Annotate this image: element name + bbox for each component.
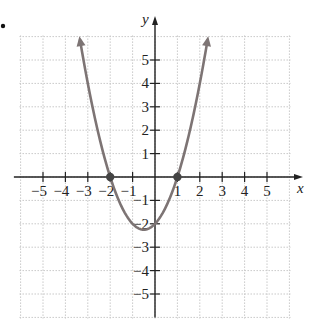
x-intercept-point <box>106 173 114 181</box>
bullet-marker <box>1 24 5 28</box>
x-tick-label: −4 <box>53 183 69 199</box>
y-tick-label: 4 <box>142 75 150 91</box>
y-tick-label: −1 <box>133 192 149 208</box>
y-axis-arrow-icon <box>152 16 158 25</box>
y-axis-label: y <box>140 11 149 27</box>
y-tick-label: 3 <box>142 99 150 115</box>
x-intercept-point <box>173 173 181 181</box>
x-tick-label: −3 <box>76 183 92 199</box>
curve-arrow-icon <box>202 36 211 47</box>
axes <box>14 16 303 317</box>
y-tick-label: 2 <box>142 122 150 138</box>
x-tick-label: 4 <box>241 183 249 199</box>
x-tick-label: −5 <box>31 183 47 199</box>
y-tick-label: 1 <box>142 146 150 162</box>
y-tick-label: −4 <box>133 263 149 279</box>
y-tick-label: 5 <box>142 52 150 68</box>
y-tick-label: −3 <box>133 239 149 255</box>
parabola-chart: −5−4−3−2−112345−5−4−3−2−112345 x y <box>0 0 310 324</box>
x-tick-label: 3 <box>218 183 226 199</box>
x-axis-label: x <box>296 180 304 196</box>
x-tick-label: 2 <box>196 183 204 199</box>
y-tick-label: −5 <box>133 286 149 302</box>
curve-arrow-icon <box>77 36 86 47</box>
x-tick-label: 5 <box>263 183 271 199</box>
